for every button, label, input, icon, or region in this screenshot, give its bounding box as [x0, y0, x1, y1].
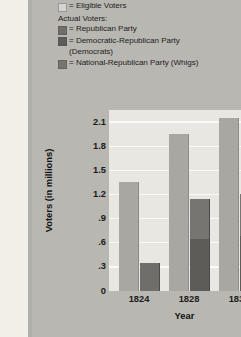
- bar-segment: [240, 194, 241, 236]
- chart-panel: = Eligible Voters Actual Voters: = Repub…: [28, 0, 241, 337]
- y-tick-label: 1.5: [68, 165, 106, 175]
- bar-group: [169, 110, 209, 291]
- legend-label-democratic-republican-party: = Democratic-Republican Party: [69, 37, 180, 45]
- y-tick-label: 1.2: [68, 189, 106, 199]
- legend-item-national-republican-party: = National-Republican Party (Whigs): [58, 59, 241, 69]
- x-tick-label: 1824: [119, 294, 159, 304]
- x-axis-ticks: 182418281832: [109, 294, 241, 308]
- x-tick-label: 1832: [219, 294, 241, 304]
- bar-eligible-voters: [119, 182, 139, 291]
- y-tick-label: .3: [68, 261, 106, 271]
- legend-item-eligible-voters: = Eligible Voters: [58, 2, 241, 12]
- bar-eligible-voters: [219, 118, 239, 291]
- bar-segment: [240, 236, 241, 291]
- legend-item-democratic-republican-party: = Democratic-Republican Party: [58, 37, 241, 47]
- y-tick-label: 0: [68, 286, 106, 296]
- y-tick-label: 1.8: [68, 141, 106, 151]
- x-axis-label: Year: [109, 310, 241, 321]
- bar-groups: [109, 110, 241, 291]
- bar-eligible-voters: [169, 134, 189, 291]
- legend-swatch-republican-party: [58, 26, 67, 35]
- bar-actual-voters: [190, 199, 210, 292]
- legend-label-eligible-voters: = Eligible Voters: [69, 2, 126, 10]
- bar-actual-voters: [140, 263, 160, 291]
- legend-swatch-democratic-republican-party: [58, 37, 67, 46]
- bar-segment: [190, 239, 209, 291]
- chart-legend: = Eligible Voters Actual Voters: = Repub…: [58, 2, 241, 71]
- legend-swatch-eligible-voters: [58, 3, 67, 12]
- y-axis-ticks: 0.3.6.91.21.51.82.1: [68, 104, 106, 299]
- bar-actual-voters: [240, 194, 241, 291]
- legend-label-national-republican-party: = National-Republican Party (Whigs): [69, 59, 198, 67]
- y-axis-label: Voters (in millions): [43, 138, 54, 244]
- legend-header-actual-voters: Actual Voters:: [58, 15, 241, 23]
- bar-group: [119, 110, 159, 291]
- plot-area: [109, 110, 241, 291]
- y-tick-label: .9: [68, 213, 106, 223]
- x-tick-label: 1828: [169, 294, 209, 304]
- bar-group: [219, 110, 241, 291]
- bar-segment: [140, 263, 159, 291]
- legend-label-republican-party: = Republican Party: [69, 25, 137, 33]
- legend-label-democratic-republican-party-continued: (Democrats): [69, 48, 241, 56]
- legend-item-republican-party: = Republican Party: [58, 25, 241, 35]
- y-tick-label: 2.1: [68, 117, 106, 127]
- legend-swatch-national-republican-party: [58, 60, 67, 69]
- bar-segment: [190, 199, 209, 239]
- y-tick-label: .6: [68, 237, 106, 247]
